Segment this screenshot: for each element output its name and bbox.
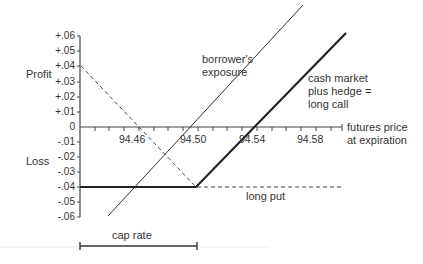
y-tick-label: 0 [41, 121, 75, 132]
long-put-label: long put [246, 190, 285, 203]
profit-label: Profit [26, 68, 52, 81]
series-borrowers-exposure [108, 5, 303, 216]
borrowers-exposure-label: borrower's [202, 53, 253, 66]
long-call-label-2: plus hedge = [308, 85, 371, 98]
cap-rate-label: cap rate [112, 229, 152, 242]
x-axis-label: futures price [347, 121, 408, 134]
y-tick-label: +.06 [41, 30, 75, 41]
x-axis-label-2: at expiration [347, 134, 407, 147]
cap-rate-bracket [80, 242, 197, 250]
x-tick-label: 94.58 [297, 133, 323, 145]
y-tick-label: +.02 [41, 91, 75, 102]
x-tick-label: 94.46 [119, 133, 145, 145]
y-tick-label: +.05 [41, 45, 75, 56]
long-call-label-3: long call [308, 98, 348, 111]
y-tick-label: +.01 [41, 106, 75, 117]
long-call-label: cash market [308, 72, 368, 85]
y-tick-label: -.04 [41, 181, 75, 192]
x-tick-label: 94.54 [239, 133, 265, 145]
y-tick-label: -.05 [41, 196, 75, 207]
loss-label: Loss [26, 155, 49, 168]
borrowers-exposure-label-2: exposure [202, 66, 247, 79]
y-tick-label: -.01 [41, 136, 75, 147]
x-tick-label: 94.50 [180, 133, 206, 145]
y-tick-label: -.06 [41, 211, 75, 222]
